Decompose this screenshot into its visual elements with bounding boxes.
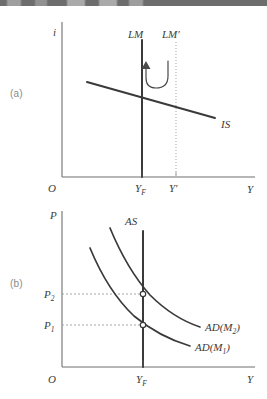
as-curve-label: AS [124, 215, 138, 227]
panel-b-y-axis-label: P [49, 209, 57, 221]
panel-a-tick-label-yprime: Y′ [169, 182, 178, 194]
lm-curve-label: LM [127, 28, 144, 40]
ad-m2-curve-label: AD(M2) [204, 321, 240, 336]
ad-m1-curve-label: AD(M1) [194, 341, 230, 356]
panel-b-tick-label-p1: P1 [43, 319, 54, 334]
panel-b-origin-label: O [48, 373, 56, 385]
equilibrium-point-p1 [140, 322, 145, 327]
panel-a-islm: i Y O LM LM′ IS YF Y′ [0, 0, 267, 200]
lm-prime-curve-label: LM′ [161, 28, 180, 40]
shift-back-arrow [146, 61, 168, 88]
ad-m1-curve [90, 248, 190, 346]
equilibrium-point-p2 [140, 291, 145, 296]
panel-b-x-axis-label: Y [247, 373, 255, 385]
panel-a-y-axis-label: i [53, 26, 56, 38]
panel-a-x-axis-label: Y [247, 183, 255, 195]
panel-b-tick-label-p2: P2 [43, 288, 55, 303]
is-curve-label: IS [220, 118, 231, 130]
ad-m2-curve [110, 228, 200, 327]
panel-a-origin-label: O [48, 182, 56, 194]
panel-b-adas: P Y O AS P2 P1 YF AD(M2) AD(M1) [0, 195, 267, 399]
panel-b-tick-label-yf: YF [136, 373, 147, 388]
